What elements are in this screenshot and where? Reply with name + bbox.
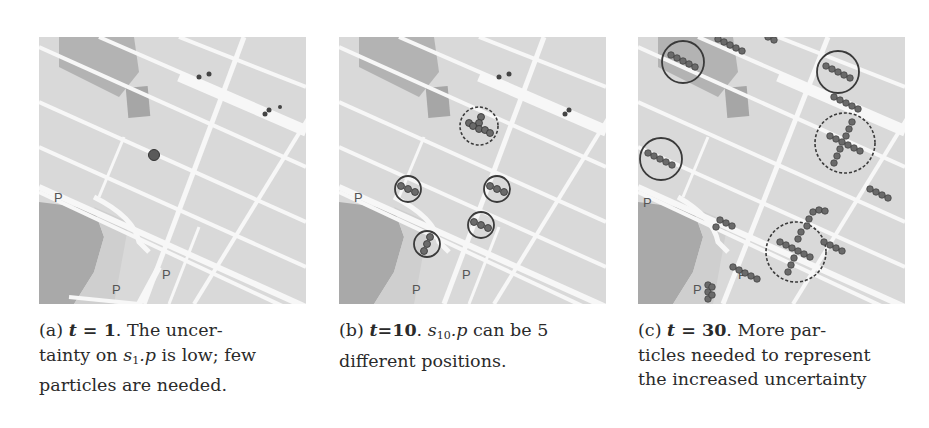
map-panel-a: P P P bbox=[39, 37, 306, 304]
svg-text:P: P bbox=[643, 195, 652, 210]
map-panel-b: P P P bbox=[339, 37, 606, 304]
subfig-label: (a) bbox=[39, 320, 63, 340]
caption-a: (a) t = 1. The uncer- tainty on s1.p is … bbox=[39, 318, 304, 398]
subfig-label: (b) bbox=[339, 320, 364, 340]
map-a-svg: P P P bbox=[39, 37, 306, 304]
svg-text:P: P bbox=[162, 267, 171, 282]
svg-text:P: P bbox=[354, 190, 363, 205]
svg-text:P: P bbox=[112, 282, 121, 297]
caption-b: (b) t=10. s10.p can be 5 different posit… bbox=[339, 318, 604, 373]
map-panel-c: P P P bbox=[638, 37, 905, 304]
particle bbox=[149, 150, 160, 161]
map-c-svg: P P P bbox=[638, 37, 905, 304]
svg-text:P: P bbox=[462, 267, 471, 282]
parking-icon: P bbox=[54, 190, 63, 205]
map-b-svg: P P P bbox=[339, 37, 606, 304]
svg-text:P: P bbox=[412, 282, 421, 297]
subfig-label: (c) bbox=[638, 320, 661, 340]
svg-text:P: P bbox=[693, 282, 702, 297]
caption-c: (c) t = 30. More par- ticles needed to r… bbox=[638, 318, 903, 392]
